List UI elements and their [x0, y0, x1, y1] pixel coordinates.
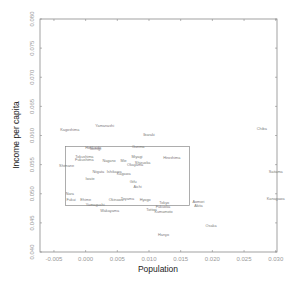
point-label: Fukushima — [75, 158, 94, 162]
point-label: Mie — [121, 159, 127, 163]
x-tick-label: 0.010 — [141, 256, 157, 262]
x-tick-label: 0.030 — [268, 256, 284, 262]
y-tick-label: 0.045 — [29, 215, 35, 231]
point-label: Osaka — [206, 224, 218, 228]
point-label: Nagano — [102, 159, 115, 163]
x-tick-label: 0.020 — [205, 256, 221, 262]
x-tick-label: -0.005 — [45, 256, 63, 262]
point-label: Kanagawa — [267, 197, 286, 201]
y-tick-label: 0.080 — [29, 11, 35, 27]
y-axis-title: Income per capita — [11, 101, 21, 169]
point-label: Iwate — [86, 177, 95, 181]
point-label: Hanyo — [158, 233, 169, 237]
point-label: Gifu — [130, 180, 137, 184]
x-axis-title: Population — [138, 264, 178, 274]
x-tick-label: 0.000 — [78, 256, 94, 262]
point-label: Kumamoto — [154, 210, 172, 214]
point-label: Nara — [66, 192, 75, 196]
x-tick-label: 0.015 — [173, 256, 189, 262]
x-tick-label: 0.025 — [237, 256, 253, 262]
plot-frame — [40, 19, 277, 252]
x-tick-label: 0.005 — [110, 256, 126, 262]
y-tick-label: 0.050 — [29, 186, 35, 202]
y-tick-label: 0.060 — [29, 127, 35, 143]
point-label: Saitama — [269, 170, 284, 174]
point-label: Shimane — [59, 164, 74, 168]
point-label: Akita — [194, 204, 203, 208]
y-tick-label: 0.075 — [29, 40, 35, 56]
y-tick-label: 0.070 — [29, 69, 35, 85]
y-tick-label: 0.040 — [29, 244, 35, 260]
point-label: Kagawa — [117, 172, 132, 176]
x-axis-ticks: -0.0050.0000.0050.0100.0150.0200.0250.03… — [45, 19, 283, 262]
point-label: Fukui — [66, 198, 75, 202]
point-label: Miyagi — [131, 155, 142, 159]
point-label: Ibaraki — [143, 133, 155, 137]
point-label: Kagoshima — [60, 128, 80, 132]
point-label: Hyogo — [140, 198, 151, 202]
point-label: Chiba — [257, 127, 268, 131]
point-label: Tochigi — [89, 147, 101, 151]
y-tick-label: 0.065 — [29, 98, 35, 114]
point-label: Wakayama — [100, 209, 120, 213]
point-label: Niigata — [92, 170, 105, 174]
point-label: Okayama — [127, 163, 144, 167]
point-label: Hiroshima — [163, 156, 181, 160]
scatter-chart: -0.0050.0000.0050.0100.0150.0200.0250.03… — [0, 0, 308, 286]
point-label: Toyama — [121, 197, 135, 201]
point-label: Aichi — [133, 185, 141, 189]
point-label: Fukuoka — [156, 205, 171, 209]
point-label: Gunma — [132, 145, 145, 149]
point-label: Yamanashi — [95, 124, 114, 128]
y-tick-label: 0.055 — [29, 156, 35, 172]
point-label: Yamaguchi — [86, 203, 105, 207]
point-labels: KagoshimaYamanashiIbarakiChibaGunmaHokka… — [59, 124, 285, 236]
